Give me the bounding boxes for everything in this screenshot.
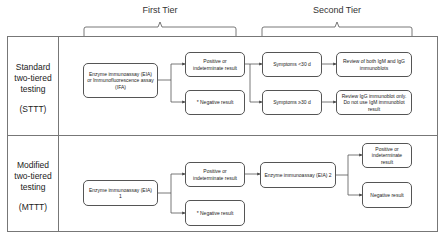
- mttt-assay2-box: Enzyme immunoassay (EIA) 2: [260, 162, 336, 188]
- row-divider: [7, 135, 438, 136]
- first-tier-brace: [84, 22, 236, 36]
- mttt-negative2-box: Negative result: [362, 182, 412, 208]
- column-divider: [58, 36, 59, 232]
- sttt-positive-box: Positive or indeterminate result: [185, 52, 245, 77]
- mttt-assay1-box: Enzyme immunoassay (EIA) 1: [83, 180, 158, 206]
- mttt-positive-box: Positive or indeterminate result: [185, 162, 245, 187]
- sttt-symptoms-lt30-box: Symptoms <30 d: [262, 52, 322, 77]
- sttt-review-both-box: Review of both IgM and IgG immunoblots: [336, 52, 412, 77]
- row-label-mttt: Modified two-tiered testing (MTTT): [8, 160, 58, 213]
- mttt-positive2-box: Positive or indeterminate result: [362, 143, 412, 168]
- second-tier-brace: [262, 22, 412, 36]
- sttt-negative-box: * Negative result: [185, 90, 245, 115]
- row-label-sttt: Standard two-tiered testing (STTT): [8, 62, 58, 115]
- sttt-symptoms-ge30-box: Symptoms ≥30 d: [262, 90, 322, 115]
- sttt-assay-box: Enzyme immunoassay (EIA) or Immunofluore…: [83, 63, 158, 98]
- sttt-review-igg-box: Review IgG immunoblot only. Do not use I…: [336, 90, 412, 115]
- mttt-negative-box: * Negative result: [185, 200, 245, 226]
